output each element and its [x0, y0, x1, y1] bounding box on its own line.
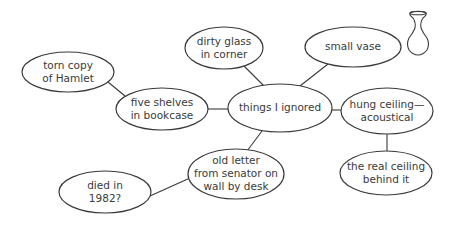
node-torn-hamlet: torn copyof Hamlet: [22, 52, 114, 92]
node-small-vase: small vase: [305, 27, 401, 67]
node-label-line: things I ignored: [239, 101, 321, 113]
edge-things-ignored-to-dirty-glass: [244, 66, 264, 86]
edge-five-shelves-to-torn-hamlet: [108, 82, 125, 96]
node-label-line: in corner: [201, 48, 248, 60]
node-label-line: old letter: [212, 154, 260, 166]
node-old-letter: old letterfrom senator onwall by desk: [188, 149, 284, 199]
node-label-line: hung ceiling—: [350, 98, 425, 110]
nodes-layer: things I ignoreddirty glassin cornersmal…: [22, 27, 433, 213]
node-label-line: wall by desk: [203, 180, 269, 192]
node-label-line: died in: [87, 179, 123, 191]
vase-icon: [408, 11, 429, 55]
node-label-line: torn copy: [43, 59, 93, 71]
edge-old-letter-to-died-1982: [150, 178, 190, 196]
node-label-line: behind it: [363, 173, 409, 185]
node-label-line: in bookcase: [131, 109, 194, 121]
node-label-line: five shelves: [131, 96, 193, 108]
mind-map-canvas: things I ignoreddirty glassin cornersmal…: [0, 0, 457, 229]
node-hung-ceiling: hung ceiling—acoustical: [341, 88, 433, 134]
node-label-line: from senator on: [194, 167, 278, 179]
edge-things-ignored-to-small-vase: [300, 64, 328, 86]
node-label-line: the real ceiling: [347, 160, 425, 172]
node-label-line: 1982?: [89, 192, 121, 204]
mind-map-diagram: things I ignoreddirty glassin cornersmal…: [0, 0, 457, 229]
node-died-1982: died in1982?: [59, 171, 151, 213]
node-label-line: of Hamlet: [42, 72, 94, 84]
node-real-ceiling: the real ceilingbehind it: [340, 151, 432, 195]
node-label-line: acoustical: [361, 111, 414, 123]
node-dirty-glass: dirty glassin corner: [185, 27, 263, 69]
node-label-line: small vase: [325, 40, 381, 52]
edge-things-ignored-to-old-letter: [247, 131, 262, 151]
node-five-shelves: five shelvesin bookcase: [116, 88, 208, 130]
central-node-things-ignored: things I ignored: [228, 84, 332, 132]
node-label-line: dirty glass: [197, 35, 252, 47]
